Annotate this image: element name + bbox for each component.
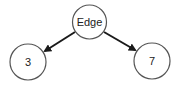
node-left-label: 3 [25, 56, 31, 68]
node-left: 3 [10, 44, 46, 80]
node-right-label: 7 [149, 55, 155, 67]
node-root-label: Edge [77, 16, 103, 28]
node-root: Edge [73, 5, 107, 39]
tree-diagram: Edge 3 7 [0, 0, 186, 87]
edge-root-to-right [104, 32, 135, 50]
node-right: 7 [134, 43, 170, 79]
edge-root-to-left [45, 32, 75, 51]
